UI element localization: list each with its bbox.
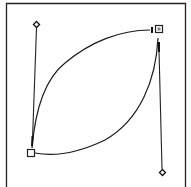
anchor-top-right[interactable] — [156, 26, 163, 33]
bezier-canvas[interactable] — [0, 0, 191, 187]
handle-top-left[interactable] — [34, 22, 40, 28]
anchor-bottom-left[interactable] — [28, 150, 35, 157]
handle-bottom-right[interactable] — [160, 170, 166, 176]
handle-line-top-left — [33, 28, 37, 140]
curve-upper[interactable] — [32, 30, 150, 148]
curve-lower[interactable] — [35, 38, 158, 154]
handle-line-bottom-right — [159, 50, 162, 169]
handle-line-top-left-thick — [32, 136, 33, 146]
